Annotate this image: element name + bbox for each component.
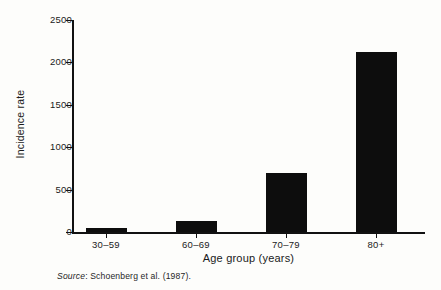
bar-30-59 bbox=[86, 228, 127, 232]
bar-60-69 bbox=[176, 221, 217, 232]
figure-container: 2500 2000 1500 1000 500 0 bbox=[0, 0, 441, 290]
x-tick-label-70-79: 70–79 bbox=[246, 239, 326, 250]
x-tick-mark-80-plus bbox=[376, 234, 377, 238]
bar-70-79 bbox=[266, 173, 307, 232]
source-note: Source: Schoenberg et al. (1987). bbox=[57, 271, 191, 281]
y-tick-2000: 2000 bbox=[0, 57, 72, 67]
y-axis-title: Incidence rate bbox=[14, 74, 26, 174]
x-tick-mark-70-79 bbox=[286, 234, 287, 238]
x-tick-mark-30-59 bbox=[106, 234, 107, 238]
y-tick-1500: 1500 bbox=[0, 100, 72, 110]
bar-80-plus bbox=[356, 52, 397, 232]
source-citation: Schoenberg et al. (1987). bbox=[90, 271, 191, 281]
bar-chart-plot: 2500 2000 1500 1000 500 0 bbox=[0, 0, 441, 290]
x-tick-mark-60-69 bbox=[196, 234, 197, 238]
x-axis-line bbox=[72, 232, 425, 234]
y-tick-0: 0 bbox=[0, 227, 72, 237]
y-tick-label-0: 0 bbox=[26, 227, 72, 237]
x-axis-title: Age group (years) bbox=[72, 252, 425, 264]
y-axis-line bbox=[72, 20, 74, 233]
source-label: Source bbox=[57, 271, 85, 281]
y-tick-1000: 1000 bbox=[0, 142, 72, 152]
y-tick-label-500: 500 bbox=[26, 185, 72, 195]
x-tick-label-60-69: 60–69 bbox=[156, 239, 236, 250]
y-tick-label-1500: 1500 bbox=[26, 100, 72, 110]
y-tick-2500: 2500 bbox=[0, 15, 72, 25]
x-tick-label-30-59: 30–59 bbox=[66, 239, 146, 250]
y-tick-label-1000: 1000 bbox=[26, 142, 72, 152]
y-tick-label-2000: 2000 bbox=[26, 57, 72, 67]
y-tick-label-2500: 2500 bbox=[26, 15, 72, 25]
y-tick-500: 500 bbox=[0, 185, 72, 195]
x-tick-label-80-plus: 80+ bbox=[336, 239, 416, 250]
